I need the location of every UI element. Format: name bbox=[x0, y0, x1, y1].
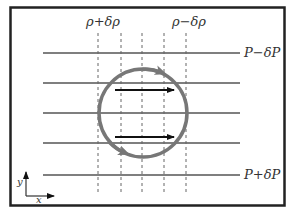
axis-x-label: x bbox=[36, 194, 42, 205]
axis-y-label: y bbox=[16, 176, 23, 187]
diagram-canvas: ρ+δρ ρ−δρ P−δP P+δP y x bbox=[0, 0, 293, 218]
label-density-high: ρ+δρ bbox=[85, 14, 120, 29]
label-pressure-high: P+δP bbox=[243, 167, 280, 182]
label-density-low: ρ−δρ bbox=[171, 14, 206, 29]
label-pressure-low: P−δP bbox=[243, 45, 280, 60]
